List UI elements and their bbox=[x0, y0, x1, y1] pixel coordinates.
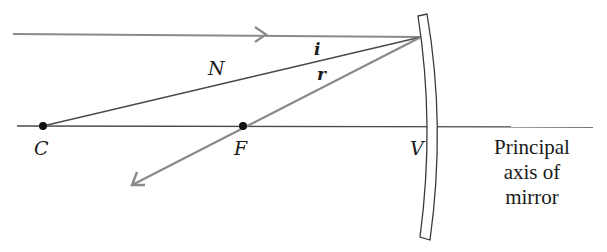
mirror-reflection-diagram: N i r C F V Principal axis of mirror bbox=[0, 0, 607, 252]
label-f: F bbox=[233, 137, 248, 159]
label-reflection-angle: r bbox=[317, 64, 327, 84]
principal-axis-caption: Principal axis of mirror bbox=[494, 135, 570, 209]
reflected-ray bbox=[132, 37, 421, 185]
label-incidence-angle: i bbox=[314, 39, 320, 59]
caption-line-3: mirror bbox=[505, 185, 559, 209]
incident-arrow-icon bbox=[255, 27, 266, 42]
label-normal: N bbox=[207, 57, 226, 79]
label-v: V bbox=[410, 137, 426, 159]
normal-line bbox=[43, 37, 421, 126]
incident-ray bbox=[13, 27, 421, 42]
point-c bbox=[39, 122, 47, 130]
principal-axis bbox=[17, 126, 593, 127]
label-c: C bbox=[34, 137, 49, 159]
caption-line-1: Principal bbox=[494, 135, 570, 159]
caption-line-2: axis of bbox=[504, 160, 561, 184]
point-f bbox=[239, 122, 247, 130]
